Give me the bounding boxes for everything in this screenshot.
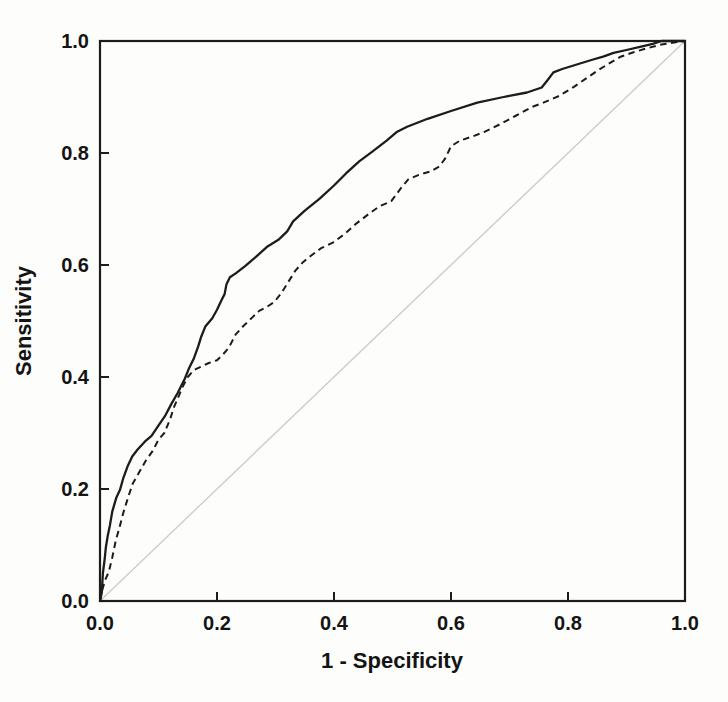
x-tick-label: 0.8 <box>554 612 582 634</box>
x-tick-label: 0.4 <box>320 612 349 634</box>
chance-diagonal <box>100 41 685 601</box>
reference-layer <box>100 41 685 601</box>
y-tick-label: 0.2 <box>61 478 89 500</box>
x-tick-label: 0.2 <box>203 612 231 634</box>
y-tick-label: 0.4 <box>61 366 90 388</box>
x-tick-label: 0.0 <box>86 612 114 634</box>
y-axis-label: Sensitivity <box>11 265 36 376</box>
y-tick-label: 0.0 <box>61 590 89 612</box>
y-tick-label: 1.0 <box>61 30 89 52</box>
x-tick-label: 0.6 <box>437 612 465 634</box>
y-tick-label: 0.8 <box>61 142 89 164</box>
roc-chart: 0.00.20.40.60.81.00.00.20.40.60.81.0 1 -… <box>0 0 728 702</box>
roc-figure: 0.00.20.40.60.81.00.00.20.40.60.81.0 1 -… <box>0 0 728 702</box>
y-tick-label: 0.6 <box>61 254 89 276</box>
x-axis-label: 1 - Specificity <box>321 648 464 673</box>
x-tick-label: 1.0 <box>671 612 699 634</box>
